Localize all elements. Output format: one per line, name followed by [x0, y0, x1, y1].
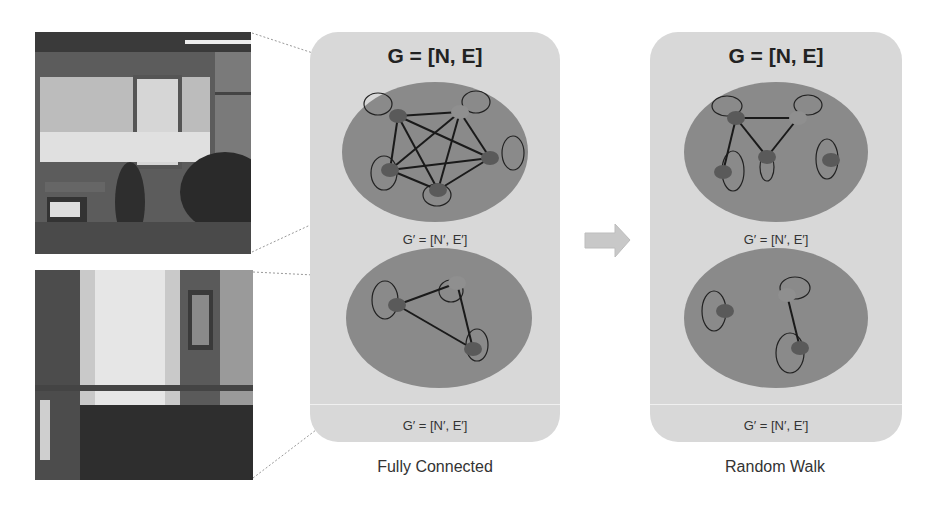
panel-divider — [650, 404, 902, 405]
caption-random-walk: Random Walk — [655, 458, 895, 476]
subgraph-label-top: G′ = [N′, E′] — [650, 232, 902, 247]
bedroom-illustration — [35, 270, 253, 480]
random-walk-panel: G = [N, E] G′ = [N′, E′] G′ — [650, 32, 902, 442]
garage-illustration — [35, 32, 251, 254]
bedroom-photo — [35, 270, 253, 480]
subgraph-label-bottom: G′ = [N′, E′] — [650, 418, 902, 433]
fully-connected-panel: G = [N, E] — [310, 32, 560, 442]
subgraph-label-bottom: G′ = [N′, E′] — [310, 418, 560, 433]
subgraph-label-top: G′ = [N′, E′] — [310, 232, 560, 247]
panel-divider — [310, 404, 560, 405]
caption-fully-connected: Fully Connected — [315, 458, 555, 476]
garage-photo — [35, 32, 251, 254]
